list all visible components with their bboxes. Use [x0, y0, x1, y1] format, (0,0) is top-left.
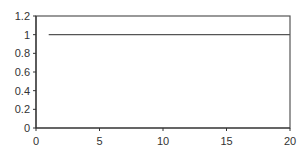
x-tick-label: 15 — [220, 135, 232, 147]
y-axis: 00.20.40.60.811.2 — [15, 10, 36, 134]
x-tick-label: 20 — [284, 135, 296, 147]
y-tick-label: 1.2 — [15, 10, 30, 22]
y-tick-label: 0 — [24, 122, 30, 134]
y-tick-label: 1 — [24, 29, 30, 41]
plot-area-border — [36, 16, 290, 128]
x-tick-label: 5 — [96, 135, 102, 147]
y-tick-label: 0.8 — [15, 47, 30, 59]
x-axis: 05101520 — [33, 128, 296, 147]
y-tick-label: 0.6 — [15, 66, 30, 78]
y-tick-label: 0.4 — [15, 85, 30, 97]
y-tick-label: 0.2 — [15, 103, 30, 115]
plot-frame — [36, 16, 290, 128]
x-tick-label: 0 — [33, 135, 39, 147]
x-tick-label: 10 — [157, 135, 169, 147]
line-chart: 00.20.40.60.811.2 05101520 — [0, 0, 306, 157]
